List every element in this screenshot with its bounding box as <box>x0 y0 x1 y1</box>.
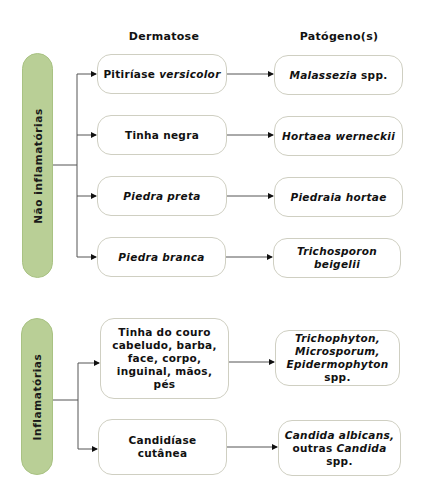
patogeno-box: Candida albicans,outras Candida spp. <box>278 420 401 476</box>
box-text: Pitiríase versicolor <box>103 68 220 81</box>
group-label: Não inflamatórias <box>32 108 44 224</box>
box-text: Piedra branca <box>118 251 204 264</box>
dermatose-box: Tinha negra <box>97 115 227 155</box>
box-text: Trichophyton,Microsporum,Epidermophyton … <box>280 332 395 384</box>
group-label: Inflamatórias <box>31 353 43 440</box>
group-pill-inflamatorias: Inflamatórias <box>21 318 53 475</box>
patogeno-box: Trichosporonbeigelii <box>273 238 401 278</box>
box-text: Tinha negra <box>125 129 199 142</box>
box-text: Piedraia hortae <box>290 191 386 204</box>
box-text: Tinha do courocabeludo, barba,face, corp… <box>105 326 224 391</box>
patogeno-box: Piedraia hortae <box>274 177 403 217</box>
patogeno-box: Trichophyton,Microsporum,Epidermophyton … <box>275 330 400 386</box>
dermatose-box: Piedra branca <box>97 237 226 277</box>
patogeno-box: Malassezia spp. <box>274 55 403 95</box>
box-text: Candidíase cutânea <box>103 434 222 460</box>
dermatose-box: Candidíase cutânea <box>98 419 227 475</box>
patogeno-box: Hortaea werneckii <box>274 116 403 156</box>
group-pill-nao-inflamatorias: Não inflamatórias <box>22 53 53 278</box>
dermatose-box: Tinha do courocabeludo, barba,face, corp… <box>100 318 229 399</box>
box-text: Trichosporonbeigelii <box>297 245 377 271</box>
box-text: Hortaea werneckii <box>282 130 395 143</box>
dermatose-box: Pitiríase versicolor <box>97 54 227 94</box>
box-text: Candida albicans,outras Candida spp. <box>283 429 396 468</box>
box-text: Piedra preta <box>123 190 200 203</box>
box-text: Malassezia spp. <box>289 69 387 82</box>
dermatose-box: Piedra preta <box>97 176 227 216</box>
